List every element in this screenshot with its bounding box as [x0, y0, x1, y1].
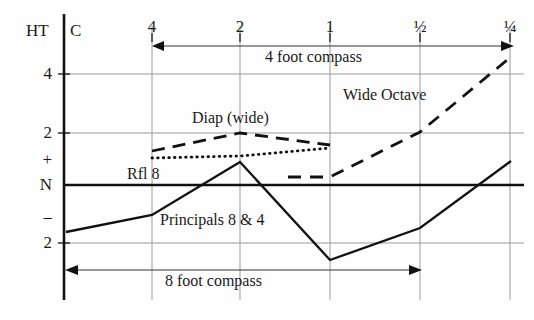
y-axis-header-left: HT — [26, 22, 49, 39]
x-tick-label-4: 4 — [132, 18, 172, 35]
x-tick-label-half: ½ — [400, 18, 440, 35]
x-tick-label-2: 2 — [220, 18, 260, 35]
x-tick-label-1: 1 — [310, 18, 350, 35]
y-tick-label-plus: + — [28, 151, 52, 168]
annotation-8-foot-compass: 8 foot compass — [165, 273, 262, 289]
y-tick-label-4: 4 — [28, 65, 52, 82]
series-label-principals: Principals 8 & 4 — [160, 212, 264, 228]
y-tick-label-minus: – — [28, 208, 52, 225]
y-tick-label-minus-2: 2 — [28, 234, 52, 251]
organ-scaling-chart: HT C 4 2 + N – 2 4 2 1 ½ ¼ 4 foot compas… — [0, 0, 534, 320]
series-rfl-8-dotted — [152, 148, 330, 158]
y-tick-label-2: 2 — [28, 124, 52, 141]
x-tick-label-quarter: ¼ — [490, 18, 530, 35]
series-diap-wide-dashed-left — [152, 133, 330, 151]
arrowhead-left-8ft — [65, 265, 78, 275]
annotation-4-foot-compass: 4 foot compass — [265, 49, 362, 65]
series-label-rfl-8: Rfl 8 — [127, 166, 159, 182]
series-label-diap-wide: Diap (wide) — [192, 110, 269, 126]
annotation-wide-octave: Wide Octave — [343, 87, 426, 103]
y-tick-label-n: N — [26, 176, 52, 193]
arrowhead-left-4ft — [152, 41, 164, 51]
y-axis-header-right: C — [70, 22, 81, 39]
arrowhead-right-4ft — [501, 41, 514, 51]
